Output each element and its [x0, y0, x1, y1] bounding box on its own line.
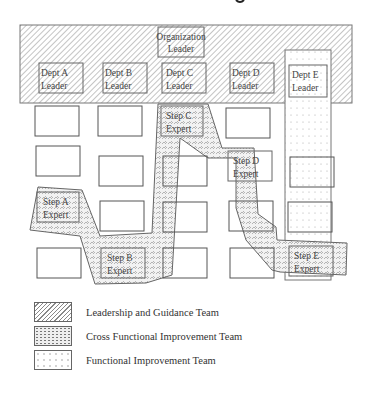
- svg-text:Step C: Step C: [166, 111, 192, 121]
- svg-text:Expert: Expert: [43, 210, 69, 220]
- svg-text:Step D: Step D: [233, 156, 259, 166]
- legend-label: Leadership and Guidance Team: [86, 307, 219, 318]
- member-box: [37, 248, 81, 278]
- member-box: [226, 108, 270, 138]
- svg-text:Leader: Leader: [41, 81, 68, 91]
- legend: Leadership and Guidance Team Cross Funct…: [34, 300, 354, 372]
- legend-label: Cross Functional Improvement Team: [86, 331, 242, 342]
- svg-text:Leader: Leader: [168, 44, 195, 54]
- dotted-swatch-icon: [34, 350, 72, 370]
- svg-text:Leader: Leader: [292, 83, 319, 93]
- member-box: [36, 146, 80, 176]
- member-box: [99, 156, 143, 186]
- legend-label: Functional Improvement Team: [86, 355, 216, 366]
- svg-text:Step B: Step B: [107, 253, 133, 263]
- legend-item-cross-functional: Cross Functional Improvement Team: [34, 324, 354, 348]
- svg-text:Leader: Leader: [166, 81, 193, 91]
- member-box: [35, 106, 79, 136]
- svg-text:Expert: Expert: [233, 169, 259, 179]
- legend-item-functional: Functional Improvement Team: [34, 348, 354, 372]
- svg-text:Expert: Expert: [107, 266, 133, 276]
- svg-text:Organization: Organization: [156, 32, 206, 42]
- diagonal-hatch-swatch-icon: [34, 302, 72, 322]
- svg-text:Leader: Leader: [232, 81, 259, 91]
- svg-text:Step A: Step A: [43, 197, 69, 207]
- legend-item-leadership: Leadership and Guidance Team: [34, 300, 354, 324]
- svg-text:Expert: Expert: [294, 264, 320, 274]
- svg-text:Dept B: Dept B: [105, 68, 132, 78]
- member-box: [100, 201, 144, 231]
- svg-text:Dept C: Dept C: [166, 68, 193, 78]
- svg-text:Dept E: Dept E: [292, 70, 319, 80]
- cross-hatch-swatch-icon: [34, 326, 72, 346]
- svg-text:Expert: Expert: [166, 124, 192, 134]
- title-fragment: [236, 0, 244, 2]
- svg-text:Step E: Step E: [294, 251, 319, 261]
- svg-text:Dept D: Dept D: [232, 68, 260, 78]
- svg-text:Leader: Leader: [105, 81, 132, 91]
- svg-text:Dept A: Dept A: [41, 68, 68, 78]
- member-box: [98, 106, 142, 136]
